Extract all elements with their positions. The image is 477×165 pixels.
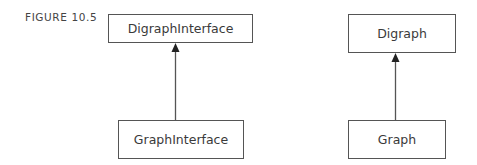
node-graph-interface: GraphInterface [118, 120, 244, 159]
node-label: Digraph [377, 26, 427, 41]
arrow-graph-interface-to-digraph-interface [172, 43, 180, 120]
figure-label: FIGURE 10.5 [25, 11, 97, 23]
arrowhead-icon [172, 43, 180, 52]
node-graph: Graph [348, 120, 446, 159]
node-label: GraphInterface [134, 132, 228, 147]
arrow-graph-to-digraph [392, 53, 400, 120]
node-label: DigraphInterface [128, 21, 234, 36]
arrowhead-icon [392, 53, 400, 62]
node-label: Graph [378, 132, 416, 147]
node-digraph: Digraph [348, 14, 456, 53]
diagram-canvas: FIGURE 10.5 DigraphInterface GraphInterf… [0, 0, 477, 165]
node-digraph-interface: DigraphInterface [108, 14, 253, 43]
